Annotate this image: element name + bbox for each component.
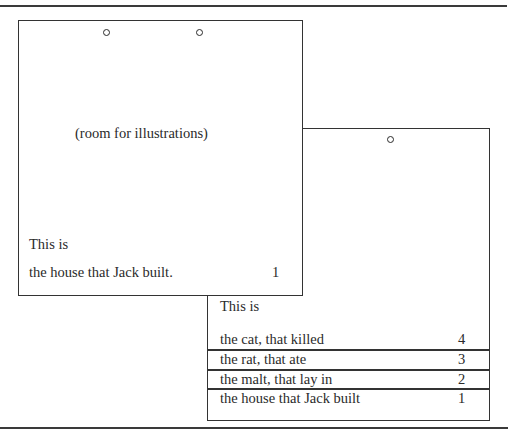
list-item-text: the cat, that killed (220, 332, 324, 347)
punch-hole-icon (387, 136, 394, 143)
card-front: (room for illustrations) This is the hou… (18, 20, 303, 296)
illustration-placeholder: (room for illustrations) (75, 126, 208, 141)
punch-hole-icon (103, 29, 110, 36)
card-front-intro: This is (29, 237, 68, 252)
list-item-number: 2 (458, 372, 465, 387)
bottom-rule (0, 427, 508, 429)
list-item-number: 4 (458, 332, 465, 347)
top-rule (0, 5, 507, 7)
list-item-number: 3 (458, 352, 465, 367)
list-item-text: the rat, that ate (220, 352, 306, 367)
card-front-line: the house that Jack built. (29, 265, 173, 280)
card-front-number: 1 (272, 265, 279, 280)
list-item-text: the malt, that lay in (220, 372, 332, 387)
list-item-number: 1 (458, 391, 465, 406)
punch-hole-icon (196, 29, 203, 36)
list-item-text: the house that Jack built (220, 391, 360, 406)
card-back-intro: This is (220, 299, 259, 314)
